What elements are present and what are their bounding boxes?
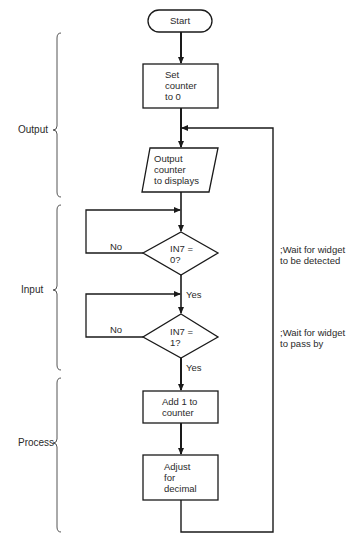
d1-yes-label: Yes (186, 289, 202, 300)
section-label-input: Input (21, 284, 43, 295)
section-label-output: Output (18, 124, 48, 135)
output-counter-label: Output counter to displays (154, 153, 199, 186)
add-counter-label: Add 1 to counter (162, 396, 197, 418)
decision-2-label: IN7 = 1? (170, 326, 193, 348)
brace-process (53, 378, 61, 532)
brace-output (53, 33, 61, 197)
set-counter-label: Set counter to 0 (165, 69, 197, 102)
adjust-decimal-label: Adjust for decimal (164, 461, 197, 494)
d2-no-label: No (110, 324, 122, 335)
comment-wait-pass: ;Wait for widget to pass by (280, 327, 345, 349)
decision-1-label: IN7 = 0? (170, 243, 193, 265)
d2-yes-label: Yes (186, 362, 202, 373)
comment-wait-detected: ;Wait for widget to be detected (280, 244, 345, 266)
section-label-process: Process (18, 437, 54, 448)
start-label: Start (170, 15, 190, 26)
d1-no-label: No (110, 241, 122, 252)
brace-input (53, 205, 61, 370)
